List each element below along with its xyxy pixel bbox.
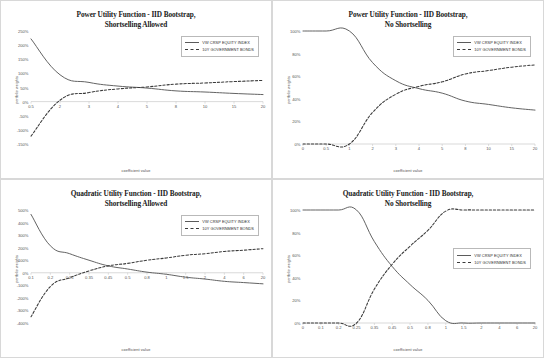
y-axis-tick-label: 50% (20, 85, 28, 90)
x-axis-tick-label: 10 (486, 146, 491, 151)
x-axis-label: coefficient value (273, 169, 543, 173)
x-axis-tick-label: 1.5 (461, 325, 467, 330)
y-axis-tick-label: 20% (292, 298, 300, 303)
legend-item: VW CRSP EQUITY INDEX (457, 39, 526, 46)
x-axis-tick-label: 2 (204, 275, 206, 280)
plot-area: 100%80%60%40%20%0%00.5123458101520VW CRS… (303, 31, 535, 144)
x-axis-tick-label: 6 (516, 325, 518, 330)
chart-legend: VW CRSP EQUITY INDEX10Y GOVERNMENT BONDS (453, 36, 531, 57)
x-axis-tick-label: 0 (302, 146, 304, 151)
x-axis-tick-label: 15 (232, 104, 237, 109)
y-axis-tick-label: 60% (292, 253, 300, 258)
x-axis-tick-label: 1 (165, 275, 167, 280)
y-axis-tick-label: 200% (18, 245, 28, 250)
chart-panel-quadratic-no-shortselling: Quadratic Utility Function - IID Bootstr… (272, 179, 544, 358)
panel-title-line1: Power Utility Function - IID Bootstrap, (349, 10, 468, 19)
legend-solid-line-icon (185, 42, 199, 43)
y-axis-tick-label: 150% (18, 57, 28, 62)
chart-panel-power-no-shortselling: Power Utility Function - IID Bootstrap, … (272, 0, 544, 179)
legend-item: 10Y GOVERNMENT BONDS (457, 46, 526, 53)
y-axis-tick-label: 100% (290, 29, 300, 34)
chart-panel-quadratic-shortselling-allowed: Quadratic Utility Function - IID Bootstr… (0, 179, 272, 358)
y-axis-tick-label: 100% (290, 208, 300, 213)
x-axis-tick-label: 0.45 (104, 275, 112, 280)
y-axis-tick-label: 0% (295, 321, 301, 326)
panel-title: Power Utility Function - IID Bootstrap, … (1, 10, 271, 29)
x-axis-label: coefficient value (273, 348, 543, 352)
panel-title: Quadratic Utility Function - IID Bootstr… (273, 189, 543, 208)
panel-title-line1: Quadratic Utility Function - IID Bootstr… (71, 189, 202, 198)
y-axis-tick-label: -100% (17, 127, 29, 132)
x-axis-tick-label: 4 (498, 325, 500, 330)
x-axis-tick-label: 15 (510, 146, 515, 151)
x-axis-tick-label: 4 (223, 275, 225, 280)
panel-title-line2: Shortselling Allowed (1, 20, 271, 30)
panel-title-line2: Shortselling Allowed (1, 199, 271, 209)
legend-item-label: 10Y GOVERNMENT BONDS (202, 47, 254, 52)
y-axis-tick-label: 400% (18, 220, 28, 225)
x-axis-tick-label: 2 (480, 325, 482, 330)
x-axis-tick-label: 2 (371, 146, 373, 151)
panel-title-line1: Power Utility Function - IID Bootstrap, (77, 10, 196, 19)
x-axis-tick-label: 0.35 (370, 325, 378, 330)
y-axis-tick-label: -50% (19, 113, 29, 118)
legend-item: VW CRSP EQUITY INDEX (185, 39, 254, 46)
x-axis-tick-label: 0.25 (353, 325, 361, 330)
legend-item: VW CRSP EQUITY INDEX (185, 218, 254, 225)
plot-area: 100%80%60%40%20%0%00.10.20.250.350.450.5… (303, 210, 535, 323)
legend-dashed-line-icon (457, 49, 471, 50)
x-axis-tick-label: 20 (261, 275, 266, 280)
chart-panel-power-shortselling-allowed: Power Utility Function - IID Bootstrap, … (0, 0, 272, 179)
x-axis-tick-label: 0.2 (47, 275, 53, 280)
legend-dashed-line-icon (185, 49, 199, 50)
panel-title-line2: No Shortselling (273, 20, 543, 30)
panel-title-line1: Quadratic Utility Function - IID Bootstr… (343, 189, 474, 198)
panel-title-line2: No Shortselling (273, 199, 543, 209)
x-axis-tick-label: 0.2 (336, 325, 342, 330)
y-axis-tick-label: -300% (17, 308, 29, 313)
x-axis-tick-label: 20 (261, 104, 266, 109)
legend-item-label: 10Y GOVERNMENT BONDS (202, 226, 254, 231)
x-axis-tick-label: 3 (88, 104, 90, 109)
x-axis-tick-label: 5 (146, 104, 148, 109)
y-axis-tick-label: 300% (18, 233, 28, 238)
x-axis-tick-label: 0.5 (28, 104, 34, 109)
x-axis-tick-label: 0.1 (318, 325, 324, 330)
y-axis-tick-label: -400% (17, 321, 29, 326)
legend-item: VW CRSP EQUITY INDEX (457, 252, 526, 259)
series-line (31, 249, 263, 317)
legend-item-label: VW CRSP EQUITY INDEX (474, 253, 522, 258)
legend-item-label: VW CRSP EQUITY INDEX (202, 219, 250, 224)
y-axis-tick-label: 60% (292, 74, 300, 79)
x-axis-tick-label: 5 (441, 146, 443, 151)
y-axis-tick-label: 100% (18, 258, 28, 263)
plot-area: 500%400%300%200%100%0%-100%-200%-300%-40… (31, 210, 263, 323)
legend-item-label: 10Y GOVERNMENT BONDS (474, 47, 526, 52)
x-axis-tick-label: 3 (395, 146, 397, 151)
x-axis-tick-label: 0.35 (85, 275, 93, 280)
x-axis-tick-label: 0.8 (144, 275, 150, 280)
x-axis-tick-label: 20 (533, 146, 538, 151)
panel-title: Quadratic Utility Function - IID Bootstr… (1, 189, 271, 208)
legend-item-label: VW CRSP EQUITY INDEX (474, 40, 522, 45)
x-axis-tick-label: 1 (445, 325, 447, 330)
x-axis-label: coefficient value (1, 348, 271, 352)
y-axis-tick-label: -100% (17, 283, 29, 288)
panel-title: Power Utility Function - IID Bootstrap, … (273, 10, 543, 29)
chart-legend: VW CRSP EQUITY INDEX10Y GOVERNMENT BONDS (181, 36, 259, 57)
x-axis-tick-label: 4 (117, 104, 119, 109)
y-axis-label: portfolio weights (287, 76, 291, 104)
legend-solid-line-icon (185, 221, 199, 222)
y-axis-tick-label: 80% (292, 230, 300, 235)
x-axis-tick-label: 4 (418, 146, 420, 151)
legend-item-label: VW CRSP EQUITY INDEX (202, 40, 250, 45)
y-axis-label: portfolio weights (287, 255, 291, 283)
y-axis-tick-label: 40% (292, 275, 300, 280)
chart-legend: VW CRSP EQUITY INDEX10Y GOVERNMENT BONDS (181, 215, 259, 236)
chart-legend: VW CRSP EQUITY INDEX10Y GOVERNMENT BONDS (453, 248, 531, 269)
legend-dashed-line-icon (457, 262, 471, 263)
x-axis-tick-label: 10 (203, 104, 208, 109)
x-axis-tick-label: 2 (59, 104, 61, 109)
legend-item: 10Y GOVERNMENT BONDS (185, 46, 254, 53)
x-axis-tick-label: 20 (533, 325, 538, 330)
